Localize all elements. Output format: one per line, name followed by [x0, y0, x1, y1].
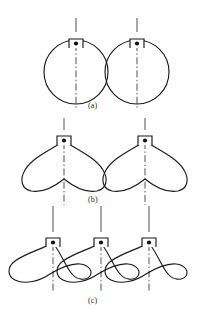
panel-a-group	[44, 18, 169, 108]
pivot-dot-icon	[135, 41, 139, 45]
pivot-dot-icon	[62, 138, 66, 142]
pivot-dot-icon	[143, 138, 147, 142]
panel-c-profile-3	[105, 243, 187, 282]
technical-figure: .outline { fill: none; stroke: #1a1a1a; …	[0, 0, 202, 319]
panel-c-group	[9, 206, 187, 292]
line-drawing-canvas: .outline { fill: none; stroke: #1a1a1a; …	[0, 0, 202, 319]
panel-c-pivot-3	[142, 238, 156, 247]
panel-a-pivot-left	[69, 39, 83, 48]
panel-c-pivot-1	[46, 238, 60, 247]
panel-c-profile-1	[9, 243, 91, 282]
pivot-dot-icon	[74, 41, 78, 45]
panel-b-pivot-right	[138, 136, 152, 145]
panel-b-pivot-left	[57, 136, 71, 145]
panel-a-pivot-right	[130, 39, 144, 48]
panel-label-c: (c)	[88, 296, 97, 305]
panel-label-a: (a)	[88, 101, 97, 110]
panel-c-profile-2	[57, 243, 139, 282]
panel-b-group	[22, 118, 187, 205]
panel-c-pivot-2	[94, 238, 108, 247]
panel-label-b: (b)	[88, 195, 98, 204]
pivot-dot-icon	[99, 240, 103, 244]
pivot-dot-icon	[51, 240, 55, 244]
pivot-dot-icon	[147, 240, 151, 244]
